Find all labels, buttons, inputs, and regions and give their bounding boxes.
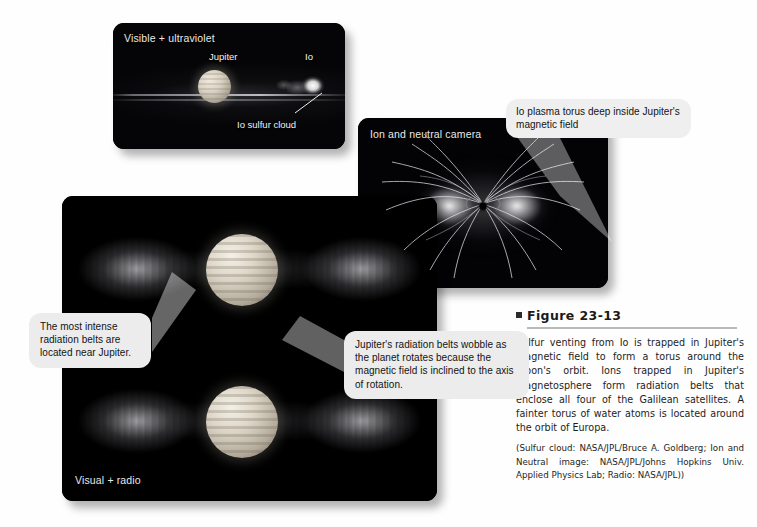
label-io: Io	[305, 51, 313, 62]
wedge-wobble	[282, 316, 344, 372]
figure-page: Jupiter Io Io sulfur cloud Visible + ult…	[0, 0, 757, 527]
label-io-sulfur-cloud: Io sulfur cloud	[237, 119, 296, 130]
callout-radiation-belts-wobble: Jupiter's radiation belts wobble as the …	[344, 331, 529, 399]
panel-label-visible-ultraviolet: Visible + ultraviolet	[124, 32, 215, 44]
label-jupiter: Jupiter	[209, 51, 238, 62]
panel-label-visual-radio: Visual + radio	[75, 474, 141, 486]
callout-pointer-wedges	[0, 0, 757, 527]
wedge-torus	[512, 130, 612, 242]
panel-label-ion-neutral-camera: Ion and neutral camera	[370, 128, 481, 140]
callout-intense-radiation-belts: The most intense radiation belts are loc…	[29, 313, 151, 368]
callout-io-plasma-torus: Io plasma torus deep inside Jupiter's ma…	[506, 99, 691, 138]
wedge-intense-belts	[152, 272, 196, 352]
